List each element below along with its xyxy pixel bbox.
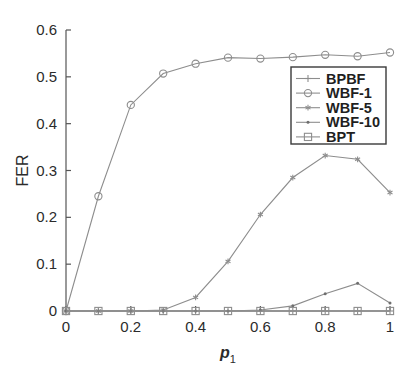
y-tick-label: 0.3 [36, 162, 57, 179]
data-point-marker [324, 292, 327, 295]
x-tick-label: 1 [386, 318, 394, 335]
y-tick-label: 0.4 [36, 115, 57, 132]
y-tick-label: 0.1 [36, 255, 57, 272]
data-point-marker [389, 302, 392, 305]
y-tick-label: 0.6 [36, 21, 57, 38]
series-wbf-5 [64, 153, 393, 314]
legend-label: WBF-10 [326, 114, 380, 130]
data-point-marker [307, 121, 310, 124]
chart-figure: 00.10.20.30.40.50.600.20.40.60.81FERp1 B… [0, 0, 415, 366]
x-tick-label: 0 [62, 318, 70, 335]
y-tick-label: 0 [49, 302, 57, 319]
legend-label: WBF-1 [326, 85, 372, 101]
x-tick-label: 0.8 [315, 318, 336, 335]
y-axis-title: FER [14, 155, 31, 187]
x-tick-label: 0.4 [185, 318, 206, 335]
y-tick-label: 0.2 [36, 208, 57, 225]
legend-label: WBF-5 [326, 100, 372, 116]
x-tick-label: 0.2 [120, 318, 141, 335]
data-point-marker [356, 282, 359, 285]
series-line [66, 156, 390, 311]
legend-label: BPT [326, 129, 355, 145]
legend-label: BPBF [326, 71, 366, 87]
chart-canvas: 00.10.20.30.40.50.600.20.40.60.81FERp1 B… [0, 0, 415, 366]
legend-group[interactable]: BPBFWBF-1WBF-5WBF-10BPT [291, 67, 386, 145]
y-tick-label: 0.5 [36, 68, 57, 85]
x-axis-title: p1 [219, 344, 236, 365]
x-tick-label: 0.6 [250, 318, 271, 335]
